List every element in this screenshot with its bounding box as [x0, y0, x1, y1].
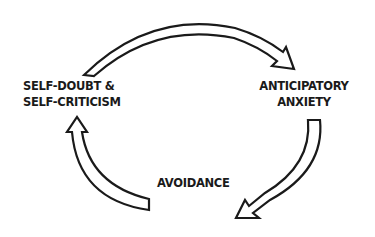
- node-label-line2: SELF-CRITICISM: [23, 94, 121, 110]
- node-anticipatory-anxiety: ANTICIPATORY ANXIETY: [249, 78, 359, 110]
- node-label-line1: AVOIDANCE: [157, 175, 230, 191]
- arrow-anxiety-to-avoidance: [236, 120, 320, 218]
- node-label-line1: SELF-DOUBT &: [23, 78, 121, 94]
- node-self-doubt-self-criticism: SELF-DOUBT & SELF-CRITICISM: [23, 78, 121, 110]
- node-label-line1: ANTICIPATORY: [249, 78, 359, 94]
- node-label-line2: ANXIETY: [249, 94, 359, 110]
- node-avoidance: AVOIDANCE: [157, 175, 230, 191]
- arrow-self-doubt-to-anxiety: [84, 24, 294, 76]
- cycle-diagram: SELF-DOUBT & SELF-CRITICISM ANTICIPATORY…: [0, 0, 375, 237]
- arrow-avoidance-to-self-doubt: [67, 117, 149, 210]
- cycle-arrows: [0, 0, 375, 237]
